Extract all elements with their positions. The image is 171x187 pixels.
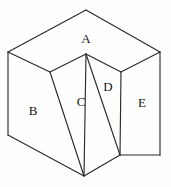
face-label-b: B <box>29 103 38 118</box>
face-label-d: D <box>103 79 112 94</box>
polyhedron-line-drawing: ABCDE <box>0 0 171 187</box>
face-label-a: A <box>81 31 91 46</box>
figure-canvas: ABCDE <box>0 0 171 187</box>
face-label-c: C <box>77 94 86 109</box>
face-label-e: E <box>138 95 146 110</box>
